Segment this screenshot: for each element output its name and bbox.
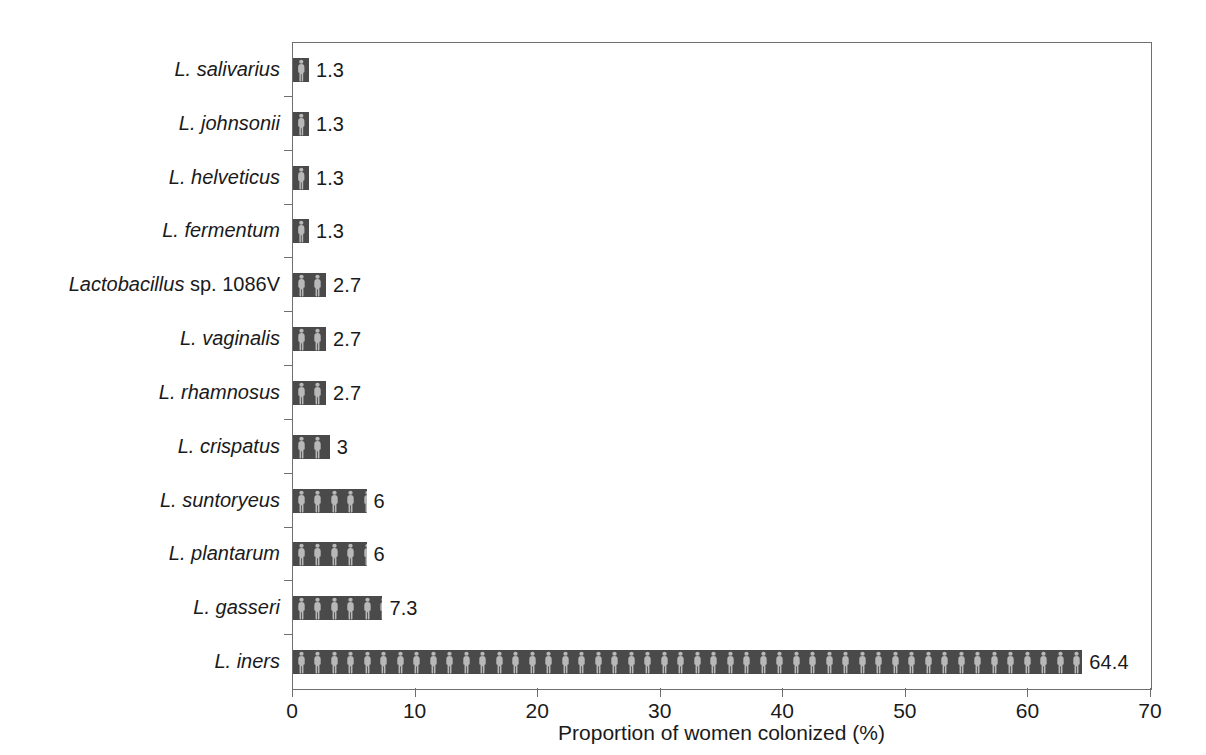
y-axis-category-label: L. fermentum: [162, 220, 280, 240]
taxon-name-italic: L. fermentum: [162, 219, 280, 241]
bar-value-label: 6: [374, 491, 385, 511]
bar-value-label: 3: [337, 437, 348, 457]
y-axis-category-label: L. salivarius: [174, 59, 280, 79]
x-axis-tick-label: 30: [648, 700, 671, 721]
y-axis-label-row: L. iners: [0, 634, 292, 688]
bar[interactable]: [293, 542, 367, 566]
bar-row: 1.3: [293, 43, 1151, 97]
bar-row: 1.3: [293, 97, 1151, 151]
x-axis-tick: [1150, 688, 1151, 697]
bar[interactable]: [293, 273, 326, 297]
bar-row: 1.3: [293, 151, 1151, 205]
y-axis-label-row: L. crispatus: [0, 419, 292, 473]
x-axis-tick-label: 20: [525, 700, 548, 721]
y-axis-category-label: L. crispatus: [178, 436, 280, 456]
taxon-name-italic: L. plantarum: [169, 542, 280, 564]
bar[interactable]: [293, 381, 326, 405]
y-axis-category-label: L. helveticus: [169, 167, 280, 187]
taxon-name-italic: L. gasseri: [193, 596, 280, 618]
x-axis-tick: [1027, 688, 1028, 697]
bar-value-label: 2.7: [333, 383, 361, 403]
y-axis-category-label: Lactobacillus sp. 1086V: [69, 274, 280, 294]
bar[interactable]: [293, 650, 1082, 674]
bar-row: 2.7: [293, 366, 1151, 420]
bar-row: 2.7: [293, 258, 1151, 312]
bar[interactable]: [293, 327, 326, 351]
bar-value-label: 1.3: [316, 221, 344, 241]
y-axis-category-label: L. iners: [214, 651, 280, 671]
y-axis-label-row: L. plantarum: [0, 527, 292, 581]
y-axis-label-row: L. rhamnosus: [0, 365, 292, 419]
y-axis-label-row: L. helveticus: [0, 150, 292, 204]
x-axis-tick: [905, 688, 906, 697]
bar[interactable]: [293, 596, 382, 620]
bar[interactable]: [293, 489, 367, 513]
y-axis-label-row: L. suntoryeus: [0, 473, 292, 527]
y-axis-category-label: L. suntoryeus: [160, 490, 280, 510]
x-axis-tick: [415, 688, 416, 697]
x-axis-tick: [660, 688, 661, 697]
y-axis-category-label: L. johnsonii: [179, 113, 280, 133]
bar-value-label: 1.3: [316, 60, 344, 80]
taxon-name-italic: L. crispatus: [178, 435, 280, 457]
x-axis-tick-label: 50: [893, 700, 916, 721]
y-axis-category-label: L. rhamnosus: [159, 382, 280, 402]
x-axis-title: Proportion of women colonized (%): [292, 722, 1151, 743]
x-axis-tick-label: 70: [1138, 700, 1161, 721]
x-axis-tick: [782, 688, 783, 697]
taxon-name-italic: L. vaginalis: [180, 327, 280, 349]
y-axis-category-label: L. vaginalis: [180, 328, 280, 348]
bar-value-label: 2.7: [333, 275, 361, 295]
bar-row: 6: [293, 528, 1151, 582]
taxon-name-italic: L. suntoryeus: [160, 489, 280, 511]
y-axis-label-row: L. vaginalis: [0, 311, 292, 365]
x-axis-tick-label: 60: [1016, 700, 1039, 721]
x-axis-tick-label: 0: [286, 700, 298, 721]
bar-row: 3: [293, 420, 1151, 474]
bar-row: 7.3: [293, 581, 1151, 635]
bar[interactable]: [293, 58, 309, 82]
taxon-name-italic: Lactobacillus: [69, 273, 185, 295]
y-axis-labels: L. salivariusL. johnsoniiL. helveticusL.…: [0, 42, 292, 688]
bar[interactable]: [293, 166, 309, 190]
x-axis-tick: [537, 688, 538, 697]
bar[interactable]: [293, 112, 309, 136]
y-axis-label-row: L. salivarius: [0, 42, 292, 96]
chart-figure: L. salivariusL. johnsoniiL. helveticusL.…: [0, 0, 1206, 755]
taxon-name-italic: L. rhamnosus: [159, 381, 280, 403]
taxon-name-italic: L. salivarius: [174, 58, 280, 80]
bar-row: 6: [293, 474, 1151, 528]
bar-row: 64.4: [293, 635, 1151, 689]
y-axis-label-row: Lactobacillus sp. 1086V: [0, 257, 292, 311]
taxon-name-upright: sp. 1086V: [184, 273, 280, 295]
bar-value-label: 1.3: [316, 114, 344, 134]
x-axis-tick-label: 10: [403, 700, 426, 721]
bar[interactable]: [293, 219, 309, 243]
y-axis-category-label: L. plantarum: [169, 543, 280, 563]
y-axis-label-row: L. gasseri: [0, 580, 292, 634]
x-axis-tick: [292, 688, 293, 697]
y-axis-label-row: L. fermentum: [0, 204, 292, 258]
bar-value-label: 7.3: [389, 598, 417, 618]
taxon-name-italic: L. johnsonii: [179, 112, 280, 134]
bar-row: 2.7: [293, 312, 1151, 366]
taxon-name-italic: L. helveticus: [169, 166, 280, 188]
y-axis-category-label: L. gasseri: [193, 597, 280, 617]
x-axis-tick-label: 40: [771, 700, 794, 721]
bar-value-label: 1.3: [316, 168, 344, 188]
plot-area: 1.31.31.31.32.72.72.73667.364.4: [292, 42, 1152, 690]
bar[interactable]: [293, 435, 330, 459]
taxon-name-italic: L. iners: [214, 650, 280, 672]
bar-value-label: 2.7: [333, 329, 361, 349]
bar-value-label: 6: [374, 544, 385, 564]
y-axis-label-row: L. johnsonii: [0, 96, 292, 150]
bar-row: 1.3: [293, 205, 1151, 259]
bar-value-label: 64.4: [1089, 652, 1128, 672]
